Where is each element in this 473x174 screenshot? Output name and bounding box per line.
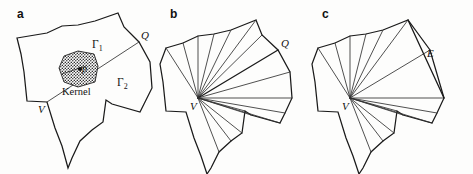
- panel-c-fan-diagonals: [318, 20, 444, 152]
- point-p-label: p: [81, 63, 87, 74]
- label-gamma-2: Γ2: [117, 76, 128, 91]
- gamma-2-subscript: 2: [124, 82, 128, 91]
- panel-c-edge-e: [408, 20, 444, 98]
- fan-edge: [198, 34, 214, 98]
- gamma-1-subscript: 1: [99, 44, 103, 53]
- fan-edge: [198, 20, 256, 98]
- panel-b-letter: b: [170, 7, 177, 21]
- panel-c-vertex-v-label: V: [342, 100, 350, 112]
- kernel-caption: Kernel: [62, 86, 91, 97]
- panel-a-letter: a: [17, 7, 24, 21]
- panel-a-vertex-q-label: Q: [141, 29, 149, 41]
- panel-a-vertex-v-label: V: [38, 103, 46, 115]
- panel-b-polygon-outline: [160, 20, 292, 174]
- fan-edge: [198, 98, 285, 113]
- panel-c-letter: c: [322, 7, 329, 21]
- panel-c-polygon-outline: [312, 20, 444, 174]
- panel-b-vertex-v-label: V: [190, 100, 198, 112]
- fan-edge: [166, 48, 198, 98]
- fan-edge: [350, 98, 383, 141]
- fan-edge: [350, 98, 437, 113]
- panel-b: b V Q: [160, 7, 292, 174]
- panel-b-vertex-q-label: Q: [281, 37, 289, 49]
- fan-edge: [350, 20, 408, 98]
- figure-canvas: a Γ1 Γ2 V Q Kernel p: [0, 0, 473, 174]
- fan-edge: [198, 98, 231, 141]
- label-gamma-1: Γ1: [92, 38, 103, 53]
- panel-c: c V E: [312, 7, 444, 174]
- panel-a: a Γ1 Γ2 V Q Kernel p: [17, 7, 152, 168]
- fan-edge: [350, 34, 366, 98]
- panel-b-fan-diagonals: [166, 20, 292, 152]
- panel-c-edge-e-label: E: [426, 47, 434, 59]
- fan-edge: [318, 48, 350, 98]
- figure-root: a Γ1 Γ2 V Q Kernel p: [0, 0, 473, 174]
- fan-edge: [183, 43, 198, 98]
- fan-edge: [335, 43, 350, 98]
